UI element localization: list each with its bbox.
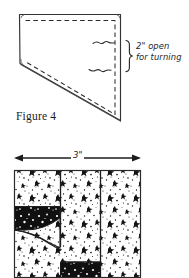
arrowhead-right bbox=[132, 154, 141, 161]
figure-4: 2" open for turning Figure 4 bbox=[0, 0, 189, 140]
fold-shadow-bottom bbox=[61, 262, 101, 278]
figure-5-fabric-illustration bbox=[0, 140, 189, 278]
opening-brace bbox=[126, 41, 133, 72]
opening-callout: 2" open for turning bbox=[136, 41, 182, 62]
dimension-label-3in: 3" bbox=[71, 150, 84, 160]
fabric-drawing bbox=[0, 140, 189, 278]
callout-line-1: 2" open bbox=[136, 41, 182, 52]
figure-4-caption: Figure 4 bbox=[16, 110, 56, 122]
arrowhead-left bbox=[14, 154, 23, 161]
fabric-body bbox=[15, 171, 141, 278]
callout-line-2: for turning bbox=[136, 52, 182, 63]
document-page: 2" open for turning Figure 4 bbox=[0, 0, 189, 278]
